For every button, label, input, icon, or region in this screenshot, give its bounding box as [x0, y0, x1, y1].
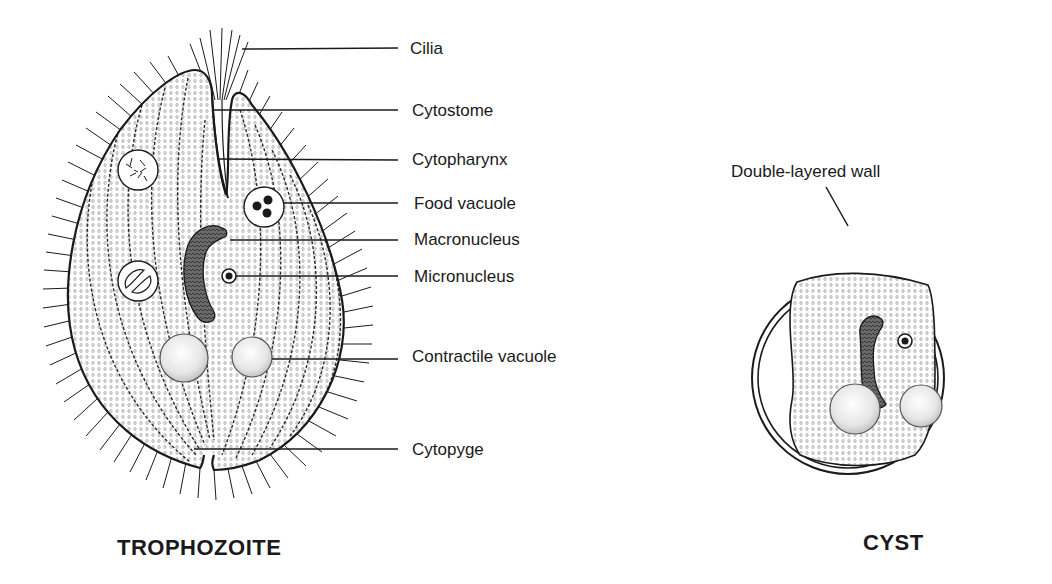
label-food-vacuole: Food vacuole	[414, 195, 516, 212]
trophozoite-figure	[43, 28, 398, 500]
label-cytostome: Cytostome	[412, 102, 493, 119]
panel-title-cyst: CYST	[863, 532, 924, 554]
trophozoite-body	[68, 70, 344, 470]
label-macronucleus: Macronucleus	[414, 231, 520, 248]
label-contractile-vacuole: Contractile vacuole	[412, 348, 557, 365]
diagram-canvas	[0, 0, 1052, 584]
micronucleus-icon	[222, 269, 236, 283]
label-cytopyge: Cytopyge	[412, 441, 484, 458]
food-vacuole-icon	[118, 261, 158, 301]
contractile-vacuole-icon	[160, 334, 208, 382]
label-double-layered-wall: Double-layered wall	[731, 163, 880, 180]
cyst-figure	[752, 187, 944, 474]
contractile-vacuole-icon	[900, 385, 942, 427]
micronucleus-icon	[898, 334, 912, 348]
contractile-vacuole-icon	[830, 384, 880, 434]
panel-title-trophozoite: TROPHOZOITE	[117, 537, 281, 559]
label-cytopharynx: Cytopharynx	[412, 151, 507, 168]
label-cilia: Cilia	[410, 40, 443, 57]
contractile-vacuole-icon	[232, 337, 272, 377]
food-vacuole-icon	[244, 187, 284, 227]
label-micronucleus: Micronucleus	[414, 268, 514, 285]
food-vacuole-icon	[118, 150, 158, 190]
